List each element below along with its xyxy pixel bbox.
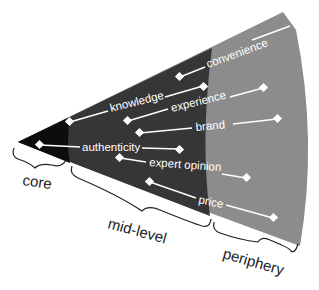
label-brand: brand — [195, 118, 225, 133]
zone-label-periphery: periphery — [221, 245, 286, 279]
purchase-drivers-wedge-diagram: convenience knowledge experience brand a… — [0, 0, 319, 290]
core-zone — [18, 117, 70, 163]
label-authenticity: authenticity — [82, 141, 140, 153]
zone-label-core: core — [22, 171, 53, 192]
zone-label-mid-level: mid-level — [106, 214, 168, 246]
